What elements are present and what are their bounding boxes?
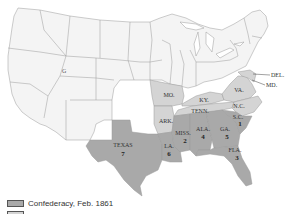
- svg-text:VA.: VA.: [234, 87, 244, 93]
- svg-text:ALA.: ALA.: [196, 126, 210, 132]
- svg-text:FLA.: FLA.: [229, 147, 242, 153]
- svg-text:MD.: MD.: [266, 82, 278, 88]
- svg-text:5: 5: [225, 133, 229, 141]
- state-florida: [196, 146, 252, 186]
- svg-text:GA.: GA.: [220, 126, 231, 132]
- svg-text:MO.: MO.: [163, 92, 175, 98]
- svg-text:DEL.: DEL.: [271, 72, 285, 78]
- legend-label: Confederacy, Feb. 1861: [28, 199, 113, 208]
- legend-swatch: [7, 211, 24, 214]
- us-secession-map: G TEXAS 7 LA. 6 MISS. 2 ALA. 4 GA. 5 S.C…: [0, 0, 292, 214]
- svg-text:3: 3: [235, 154, 239, 162]
- svg-text:4: 4: [201, 133, 205, 141]
- state-texas: [86, 120, 162, 196]
- svg-text:LA.: LA.: [164, 143, 174, 149]
- legend-item-border-states: [7, 209, 113, 214]
- svg-text:TENN.: TENN.: [191, 108, 209, 114]
- svg-text:MISS.: MISS.: [175, 130, 191, 136]
- legend-swatch: [7, 200, 24, 207]
- svg-text:N.C.: N.C.: [233, 103, 245, 109]
- svg-text:KY.: KY.: [199, 97, 209, 103]
- map-legend: Confederacy, Feb. 1861: [7, 198, 113, 214]
- svg-text:6: 6: [167, 150, 171, 158]
- svg-text:7: 7: [121, 150, 125, 158]
- great-salt-lake-icon: G: [62, 68, 67, 74]
- svg-text:2: 2: [183, 137, 187, 145]
- legend-item-confederacy: Confederacy, Feb. 1861: [7, 198, 113, 209]
- svg-text:1: 1: [238, 120, 242, 128]
- svg-text:ARK.: ARK.: [159, 118, 174, 124]
- svg-text:TEXAS: TEXAS: [113, 142, 132, 148]
